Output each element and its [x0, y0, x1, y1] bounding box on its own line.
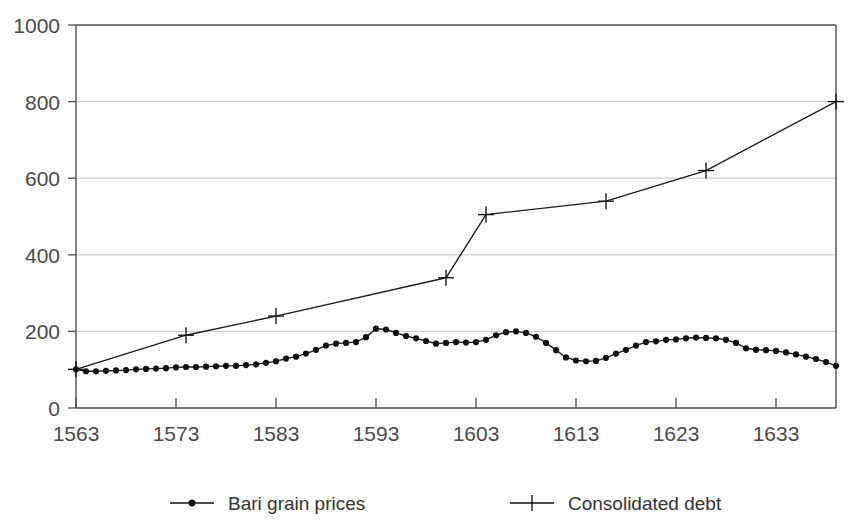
x-tick-label: 1593	[353, 422, 400, 445]
grain-price-data-point[interactable]	[633, 342, 639, 348]
grain-price-data-point[interactable]	[473, 339, 479, 345]
grain-price-data-point[interactable]	[563, 354, 569, 360]
grain-price-data-point[interactable]	[573, 357, 579, 363]
consolidated-debt-data-point[interactable]	[598, 193, 614, 209]
grain-price-data-point[interactable]	[123, 367, 129, 373]
grain-price-data-point[interactable]	[833, 363, 839, 369]
grain-price-data-point[interactable]	[803, 354, 809, 360]
y-tick-label: 1000	[13, 14, 60, 37]
y-tick-label: 400	[25, 244, 60, 267]
x-axis-tick-labels: 15631573158315931603161316231633	[53, 422, 800, 445]
grain-price-data-point[interactable]	[333, 341, 339, 347]
grain-price-data-point[interactable]	[543, 340, 549, 346]
x-axis-ticks	[76, 398, 776, 408]
gridlines-group	[76, 102, 836, 332]
consolidated-debt-data-point[interactable]	[268, 308, 284, 324]
consolidated-debt-data-point[interactable]	[828, 94, 844, 110]
grain-price-data-point[interactable]	[403, 333, 409, 339]
x-tick-label: 1613	[553, 422, 600, 445]
grain-price-data-point[interactable]	[533, 334, 539, 340]
y-tick-label: 800	[25, 91, 60, 114]
consolidated-debt-data-point[interactable]	[698, 163, 714, 179]
grain-price-data-point[interactable]	[263, 360, 269, 366]
grain-price-data-point[interactable]	[253, 361, 259, 367]
grain-price-data-point[interactable]	[463, 339, 469, 345]
grain-price-data-point[interactable]	[103, 368, 109, 374]
series-consolidated-debt[interactable]	[68, 94, 844, 378]
grain-price-data-point[interactable]	[173, 364, 179, 370]
grain-price-data-point[interactable]	[273, 358, 279, 364]
grain-price-data-point[interactable]	[503, 329, 509, 335]
x-tick-label: 1583	[253, 422, 300, 445]
grain-price-data-point[interactable]	[433, 341, 439, 347]
grain-price-data-point[interactable]	[663, 337, 669, 343]
grain-price-data-point[interactable]	[713, 335, 719, 341]
x-tick-label: 1623	[653, 422, 700, 445]
grain-price-data-point[interactable]	[763, 347, 769, 353]
grain-price-data-point[interactable]	[343, 340, 349, 346]
grain-price-data-point[interactable]	[193, 364, 199, 370]
grain-price-data-point[interactable]	[243, 362, 249, 368]
legend-item-bari-grain-prices[interactable]: Bari grain prices	[170, 493, 365, 514]
grain-price-data-point[interactable]	[753, 347, 759, 353]
grain-price-data-point[interactable]	[323, 342, 329, 348]
grain-price-data-point[interactable]	[793, 351, 799, 357]
grain-price-data-point[interactable]	[593, 358, 599, 364]
series-bari-grain-prices[interactable]	[73, 326, 839, 375]
grain-price-data-point[interactable]	[423, 338, 429, 344]
grain-price-data-point[interactable]	[283, 355, 289, 361]
grain-price-data-point[interactable]	[443, 340, 449, 346]
grain-price-data-point[interactable]	[773, 348, 779, 354]
grain-price-data-point[interactable]	[603, 355, 609, 361]
grain-price-data-point[interactable]	[93, 368, 99, 374]
grain-price-data-point[interactable]	[453, 339, 459, 345]
grain-price-data-point[interactable]	[493, 332, 499, 338]
grain-price-data-point[interactable]	[143, 366, 149, 372]
grain-price-data-point[interactable]	[723, 337, 729, 343]
grain-price-data-point[interactable]	[353, 339, 359, 345]
grain-price-data-point[interactable]	[733, 340, 739, 346]
grain-price-data-point[interactable]	[133, 366, 139, 372]
grain-price-data-point[interactable]	[313, 347, 319, 353]
grain-price-data-point[interactable]	[183, 364, 189, 370]
grain-price-data-point[interactable]	[293, 354, 299, 360]
grain-price-data-point[interactable]	[613, 351, 619, 357]
grain-price-data-point[interactable]	[163, 365, 169, 371]
grain-price-data-point[interactable]	[683, 335, 689, 341]
grain-price-data-point[interactable]	[673, 336, 679, 342]
consolidated-debt-data-point[interactable]	[178, 327, 194, 343]
grain-price-data-point[interactable]	[223, 363, 229, 369]
grain-price-data-point[interactable]	[113, 367, 119, 373]
x-tick-label: 1633	[753, 422, 800, 445]
grain-price-data-point[interactable]	[393, 330, 399, 336]
grain-price-data-point[interactable]	[743, 345, 749, 351]
grain-price-data-point[interactable]	[373, 326, 379, 332]
grain-price-data-point[interactable]	[213, 363, 219, 369]
grain-price-data-point[interactable]	[583, 358, 589, 364]
grain-price-data-point[interactable]	[783, 349, 789, 355]
consolidated-debt-line[interactable]	[76, 102, 836, 370]
consolidated-debt-data-point[interactable]	[68, 361, 84, 377]
grain-price-data-point[interactable]	[623, 347, 629, 353]
grain-price-data-point[interactable]	[553, 347, 559, 353]
grain-price-data-point[interactable]	[813, 356, 819, 362]
grain-price-data-point[interactable]	[483, 337, 489, 343]
grain-price-data-point[interactable]	[513, 328, 519, 334]
grain-price-data-point[interactable]	[233, 363, 239, 369]
grain-price-data-point[interactable]	[303, 351, 309, 357]
grain-price-data-point[interactable]	[383, 326, 389, 332]
grain-price-data-point[interactable]	[523, 330, 529, 336]
grain-price-data-point[interactable]	[203, 364, 209, 370]
grain-price-data-point[interactable]	[363, 334, 369, 340]
consolidated-debt-data-point[interactable]	[438, 270, 454, 286]
grain-price-data-point[interactable]	[693, 334, 699, 340]
grain-price-data-point[interactable]	[823, 359, 829, 365]
legend-item-consolidated-debt[interactable]: Consolidated debt	[510, 493, 722, 514]
grain-price-data-point[interactable]	[643, 339, 649, 345]
grain-price-data-point[interactable]	[653, 338, 659, 344]
grain-price-data-point[interactable]	[413, 335, 419, 341]
grain-price-data-point[interactable]	[153, 365, 159, 371]
chart-legend[interactable]: Bari grain pricesConsolidated debt	[170, 493, 722, 514]
grain-price-data-point[interactable]	[703, 335, 709, 341]
consolidated-debt-data-point[interactable]	[478, 207, 494, 223]
